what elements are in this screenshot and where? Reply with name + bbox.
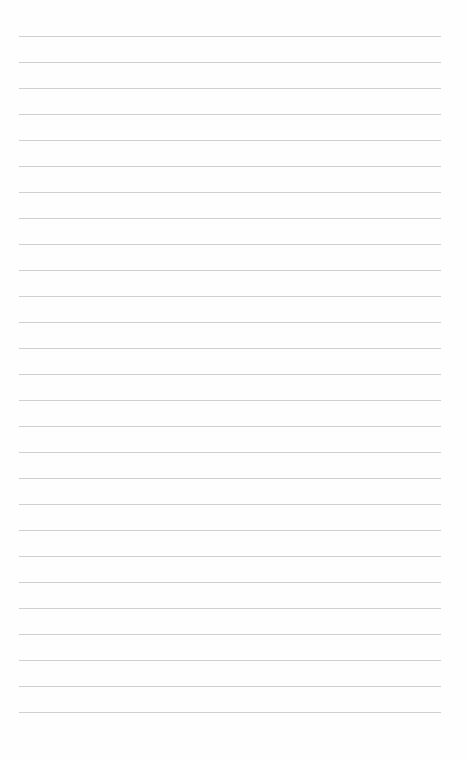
lined-paper-sheet [0, 0, 467, 760]
ruled-line [19, 426, 441, 427]
ruled-line [19, 322, 441, 323]
ruled-line [19, 114, 441, 115]
ruled-line [19, 504, 441, 505]
ruled-line [19, 452, 441, 453]
ruled-line [19, 36, 441, 37]
ruled-line [19, 582, 441, 583]
ruled-line [19, 608, 441, 609]
ruled-line [19, 530, 441, 531]
ruled-line [19, 88, 441, 89]
ruled-line [19, 296, 441, 297]
ruled-line [19, 218, 441, 219]
ruled-line [19, 660, 441, 661]
ruled-line [19, 556, 441, 557]
ruled-line [19, 270, 441, 271]
ruled-line [19, 686, 441, 687]
ruled-line [19, 478, 441, 479]
ruled-line [19, 244, 441, 245]
ruled-line [19, 712, 441, 713]
ruled-line [19, 192, 441, 193]
ruled-line [19, 348, 441, 349]
ruled-line [19, 62, 441, 63]
ruled-line [19, 374, 441, 375]
ruled-line [19, 166, 441, 167]
ruled-line [19, 140, 441, 141]
ruled-line [19, 400, 441, 401]
ruled-line [19, 634, 441, 635]
